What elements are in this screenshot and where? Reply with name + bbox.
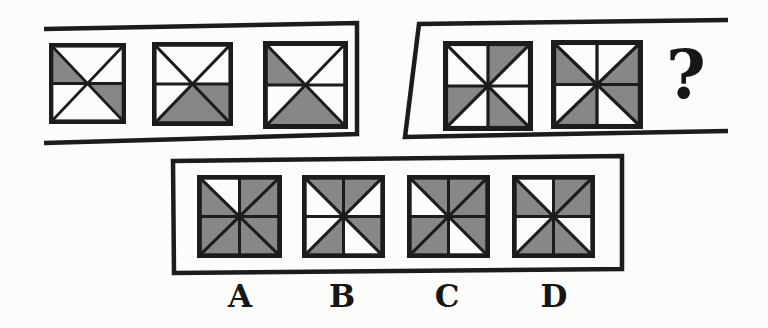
sequence-square-3 <box>263 41 348 129</box>
sequence-square-5 <box>551 40 643 129</box>
option-a-square[interactable] <box>197 175 282 258</box>
puzzle-canvas: ? A B C D <box>0 0 768 328</box>
option-d-label: D <box>524 278 584 314</box>
option-a-label: A <box>210 278 270 314</box>
sequence-square-1 <box>49 43 126 124</box>
option-c-label: C <box>417 278 477 314</box>
sequence-square-2 <box>152 42 233 126</box>
option-b-label: B <box>312 278 372 314</box>
question-mark: ? <box>660 36 712 112</box>
option-d-square[interactable] <box>512 175 595 258</box>
option-b-square[interactable] <box>302 175 385 258</box>
option-c-square[interactable] <box>407 175 490 258</box>
sequence-square-4 <box>443 41 533 131</box>
